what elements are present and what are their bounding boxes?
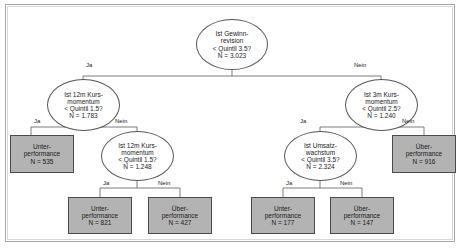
edge-label-midright-no: Nein (340, 180, 352, 186)
leaf-535-line2: performance (24, 150, 61, 157)
node-midright-line2: wachstum (306, 149, 335, 156)
edge-label-right-yes: Ja (300, 118, 306, 124)
edge-label-root-no: Nein (354, 62, 366, 68)
node-midleft-line1: Ist 12m Kurs- (118, 142, 157, 149)
edge-label-midleft-yes: Ja (103, 180, 109, 186)
leaf-ueberperformance-427: Über- performance N = 427 (148, 197, 212, 234)
node-right-line1: Ist 3m Kurs- (364, 91, 399, 98)
node-midright-line4: N = 2.324 (306, 163, 334, 170)
node-midleft-line4: N = 1.248 (123, 163, 151, 170)
leaf-821-line1: Unter- (91, 205, 109, 212)
leaf-147-line3: N = 147 (351, 219, 374, 226)
decision-tree-figure: Ist Gewinn- revision < Quintil 3.5? N = … (0, 0, 463, 248)
leaf-147-line2: performance (344, 212, 381, 219)
leaf-177-line3: N = 177 (272, 219, 295, 226)
leaf-821-line3: N = 821 (89, 219, 112, 226)
node-root-line3: < Quintil 3.5? (213, 45, 251, 52)
node-root-line2: revision (221, 37, 243, 44)
leaf-916-line3: N = 916 (413, 158, 436, 165)
leaf-916-line1: Über- (416, 143, 432, 150)
node-left-line4: N = 1.783 (69, 112, 97, 119)
edge-label-midleft-no: Nein (158, 180, 170, 186)
node-left-line1: Ist 12m Kurs- (64, 91, 103, 98)
leaf-147-line1: Über- (354, 205, 370, 212)
leaf-ueberperformance-916: Über- performance N = 916 (392, 135, 456, 173)
node-left-line3: < Quintil 1.5? (64, 105, 102, 112)
node-midright-line3: < Quintil 3.5? (301, 156, 339, 163)
leaf-unterperformance-177: Unter- performance N = 177 (251, 197, 315, 234)
node-root-line1: Ist Gewinn- (216, 30, 249, 37)
edge-label-right-no: Nein (402, 118, 414, 124)
leaf-427-line1: Über- (172, 205, 188, 212)
node-midright-line1: Ist Umsatz- (304, 142, 337, 149)
leaf-ueberperformance-147: Über- performance N = 147 (330, 197, 394, 234)
node-left-12m-momentum: Ist 12m Kurs- momentum < Quintil 1.5? N … (47, 79, 120, 131)
leaf-unterperformance-821: Unter- performance N = 821 (68, 197, 132, 234)
leaf-427-line2: performance (162, 212, 199, 219)
node-midleft-line3: < Quintil 1.5? (118, 156, 156, 163)
node-midleft-line2: momentum (121, 149, 154, 156)
node-right-line2: momentum (365, 98, 398, 105)
node-right-line3: < Quintil 2.5? (362, 105, 400, 112)
leaf-177-line2: performance (265, 212, 302, 219)
node-left-line2: momentum (67, 98, 100, 105)
node-mid-left-12m-momentum: Ist 12m Kurs- momentum < Quintil 1.5? N … (101, 131, 174, 181)
leaf-427-line3: N = 427 (169, 219, 192, 226)
leaf-535-line1: Unter- (33, 143, 51, 150)
leaf-916-line2: performance (406, 150, 443, 157)
node-mid-right-umsatzwachstum: Ist Umsatz- wachstum < Quintil 3.5? N = … (284, 131, 357, 181)
node-root: Ist Gewinn- revision < Quintil 3.5? N = … (196, 19, 268, 70)
leaf-unterperformance-535: Unter- performance N = 535 (10, 135, 74, 173)
node-root-line4: N = 3.023 (218, 52, 246, 59)
edge-label-left-yes: Ja (34, 118, 40, 124)
leaf-535-line3: N = 535 (31, 158, 54, 165)
leaf-177-line1: Unter- (274, 205, 292, 212)
leaf-821-line2: performance (82, 212, 119, 219)
node-right-line4: N = 1.240 (367, 112, 395, 119)
edge-label-left-no: Nein (115, 118, 127, 124)
edge-label-root-yes: Ja (86, 62, 92, 68)
edge-label-midright-yes: Ja (286, 180, 292, 186)
